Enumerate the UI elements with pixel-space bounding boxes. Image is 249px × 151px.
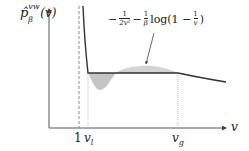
y-label-sup: vw — [28, 3, 39, 11]
formula-log: log(1 − — [150, 14, 191, 25]
frac3-num: 1 — [193, 11, 197, 18]
tick-vl-sub: l — [91, 138, 94, 147]
annotation-arrow — [146, 33, 154, 64]
formula-minus-2: − — [132, 14, 141, 25]
frac3-den: v — [194, 18, 198, 27]
tick-label-vg: vg — [172, 132, 184, 144]
formula-annotation: − 1 2v² − 1 β log(1 − 1 v ) — [108, 11, 204, 27]
tick-label-one: 1 — [74, 132, 82, 144]
frac2-den: β — [144, 18, 148, 27]
tick-vl-base: v — [84, 131, 91, 145]
x-axis-label: v — [231, 121, 238, 133]
frac1-num: 1 — [123, 11, 127, 18]
tick-vg-base: v — [172, 131, 179, 145]
y-label-arg: (v) — [40, 6, 56, 20]
tick-label-vl: vl — [84, 132, 93, 144]
formula-minus-1: − — [108, 14, 117, 25]
frac1-den: 2v² — [119, 18, 130, 27]
shaded-region-upper — [116, 66, 178, 73]
tick-one-text: 1 — [74, 131, 82, 145]
tick-vg-sub: g — [179, 138, 184, 147]
y-axis-label: p̂vwβ(v) — [20, 6, 56, 20]
y-label-sub: β — [28, 16, 33, 24]
formula-close: ) — [200, 14, 204, 25]
frac2-num: 1 — [144, 11, 148, 18]
shaded-region-lower — [88, 73, 116, 90]
